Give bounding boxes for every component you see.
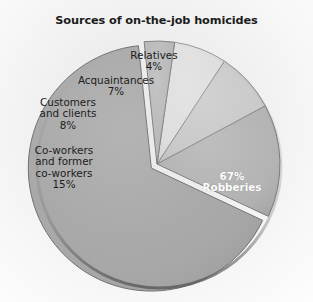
pie-chart-figure: Sources of on-the-job homicides Relative… [0, 0, 313, 302]
pie-chart-canvas [0, 0, 313, 302]
